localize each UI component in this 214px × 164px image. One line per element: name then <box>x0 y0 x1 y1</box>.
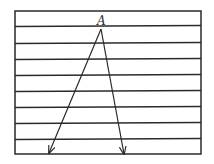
parallel-line-5 <box>15 91 201 92</box>
parallel-line-6 <box>15 107 201 108</box>
parallel-lines <box>15 26 201 140</box>
parallel-line-8 <box>15 139 201 140</box>
parallel-lines-diagram: A <box>0 0 214 164</box>
rectangle-frame <box>15 11 201 154</box>
parallel-line-1 <box>15 26 201 27</box>
point-a-label: A <box>96 14 106 28</box>
parallel-line-3 <box>15 59 201 60</box>
parallel-line-4 <box>15 75 201 76</box>
parallel-line-2 <box>15 43 201 44</box>
parallel-line-7 <box>15 123 201 124</box>
